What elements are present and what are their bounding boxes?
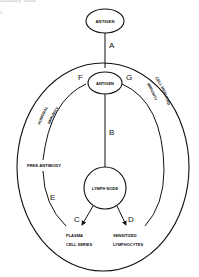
humoral-immunity-label: IMMUNITY xyxy=(47,106,60,125)
immune-response-diagram: ANTIGEN A ANTIGEN F G E HUMORAL IMMUNITY… xyxy=(0,0,199,277)
letter-d: D xyxy=(128,215,134,224)
sensitized-label-line1: SENSITIZED xyxy=(113,233,137,238)
letter-g: G xyxy=(126,73,132,82)
letter-f: F xyxy=(78,73,83,82)
sensitized-label-line2: LYMPHOCYTES xyxy=(113,242,143,247)
path-c-arrow xyxy=(82,206,93,225)
letter-a: A xyxy=(109,41,115,50)
lymph-node-label: LYMPH NODE xyxy=(92,186,119,191)
free-antibody-label: FREE ANTIBODY xyxy=(27,163,61,168)
plasma-label-line1: PLASMA xyxy=(66,233,83,238)
antigen-inner-node: ANTIGEN xyxy=(88,72,122,94)
letter-b: B xyxy=(109,128,114,137)
path-d-arrow xyxy=(117,206,126,225)
antigen-outer-label: ANTIGEN xyxy=(96,19,115,24)
letter-c: C xyxy=(74,215,80,224)
lymph-node: LYMPH NODE xyxy=(84,167,126,209)
plasma-label-line2: CELL SERIES xyxy=(66,242,92,247)
antigen-outer-node: ANTIGEN xyxy=(86,9,124,33)
cell-mediated-arc xyxy=(122,84,164,226)
letter-e: E xyxy=(50,193,55,202)
antigen-inner-label: ANTIGEN xyxy=(96,81,114,86)
cell-mediated-label: CELL MEDIATED xyxy=(154,76,170,106)
